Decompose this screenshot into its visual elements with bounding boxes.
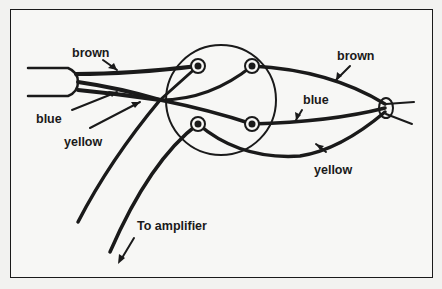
label-yellow-left: yellow [64, 135, 102, 149]
label-blue-left: blue [36, 112, 62, 126]
wiring-diagram: brown blue yellow brown blue yellow To a… [0, 0, 442, 289]
label-yellow-right: yellow [314, 163, 352, 177]
brown-wire-left [76, 66, 198, 74]
cable-sheath [28, 68, 78, 96]
label-to-amplifier: To amplifier [137, 219, 207, 233]
label-brown-right: brown [337, 49, 375, 63]
blue-wire-right [252, 108, 385, 124]
label-blue-right: blue [303, 93, 329, 107]
label-brown-left: brown [72, 46, 110, 60]
